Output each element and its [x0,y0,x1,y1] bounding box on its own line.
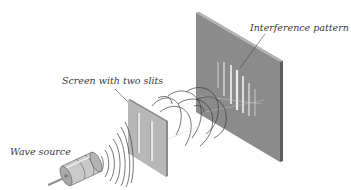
slit-lower [151,121,153,161]
wave-source-rod [48,178,64,185]
slit-upper [138,113,140,153]
projection-line [166,126,200,140]
label-interference-pattern: Interference pattern [249,22,349,33]
double-slit-diagram: Wave source Screen with two slits Interf… [0,0,351,190]
leader-line-slit-screen [115,89,128,102]
label-wave-source: Wave source [10,146,71,157]
label-slit-screen: Screen with two slits [62,75,163,86]
detector-screen [196,12,283,162]
